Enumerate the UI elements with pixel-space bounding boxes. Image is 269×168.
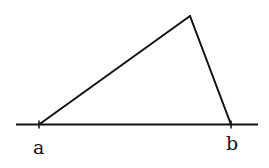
- vertex-label-b: b: [226, 134, 238, 153]
- side-a-to-apex: [39, 16, 190, 125]
- vertex-label-a: a: [33, 138, 44, 157]
- side-apex-to-b: [190, 16, 231, 125]
- triangle-diagram: a b: [0, 0, 269, 168]
